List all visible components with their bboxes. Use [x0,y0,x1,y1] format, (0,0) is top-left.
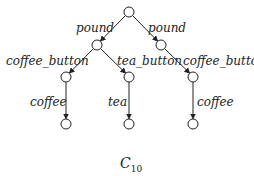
edge-label-n4-n7: tea [108,96,127,108]
tree-graph [0,0,254,176]
node-n4 [124,72,134,82]
node-n1 [92,40,102,50]
node-n3 [61,72,71,82]
node-n5 [188,72,198,82]
diagram-caption: C10 [120,156,142,174]
caption-main: C [120,155,131,171]
node-n6 [61,119,71,129]
edge-label-n1-n4: tea_button [117,55,182,67]
node-n7 [124,119,134,129]
caption-subscript: 10 [131,164,142,174]
node-n2 [156,40,166,50]
edge-label-n5-n8: coffee [197,96,234,108]
edge-label-n2-n5: coffee_button [183,55,254,67]
diagram-canvas: pound pound coffee_button tea_button cof… [0,0,254,176]
edge-label-n3-n6: coffee [30,96,67,108]
node-n8 [188,119,198,129]
edge-label-root-n1: pound [76,22,114,34]
edge-label-n1-n3: coffee_button [6,55,89,67]
edge-label-root-n2: pound [148,22,186,34]
node-root [124,7,134,17]
